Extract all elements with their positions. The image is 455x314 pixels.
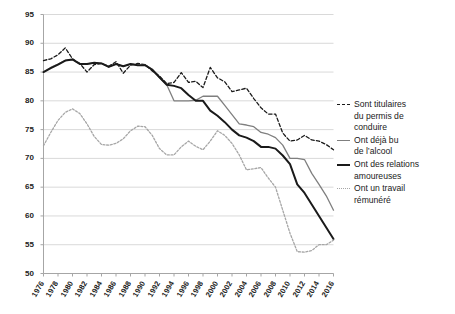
legend-item-label: Ont un travail rémunéré — [354, 183, 455, 206]
y-tick-label: 80 — [14, 96, 34, 105]
legend-item-3[interactable]: Ont des relations amoureuses — [337, 159, 455, 182]
chart-container: 95908580757065605550 1976197819801982198… — [0, 0, 455, 314]
y-tick-label: 70 — [14, 153, 34, 162]
gridlines — [44, 15, 334, 274]
y-tick-label: 85 — [14, 67, 34, 76]
legend-line-swatch-icon — [337, 183, 350, 195]
y-tick-label: 65 — [14, 182, 34, 191]
legend-item-1[interactable]: Sont titulaires du permis de conduire — [337, 99, 455, 134]
chart-legend: Sont titulaires du permis de conduireOnt… — [337, 99, 455, 207]
y-tick-label: 95 — [14, 10, 34, 19]
y-tick-label: 50 — [14, 269, 34, 278]
legend-item-label: Sont titulaires du permis de conduire — [354, 99, 455, 134]
legend-item-2[interactable]: Ont déjà bu de l’alcool — [337, 135, 455, 158]
y-tick-label: 60 — [14, 211, 34, 220]
y-tick-label: 90 — [14, 38, 34, 47]
legend-item-label: Ont des relations amoureuses — [354, 159, 455, 182]
legend-line-swatch-icon — [337, 135, 350, 147]
legend-item-4[interactable]: Ont un travail rémunéré — [337, 183, 455, 206]
y-tick-label: 55 — [14, 240, 34, 249]
axis-lines — [41, 15, 334, 277]
legend-line-swatch-icon — [337, 99, 350, 111]
y-tick-label: 75 — [14, 125, 34, 134]
series-paths — [44, 48, 334, 252]
legend-line-swatch-icon — [337, 159, 350, 171]
series-line-3 — [44, 59, 334, 239]
legend-item-label: Ont déjà bu de l’alcool — [354, 135, 455, 158]
series-line-4 — [44, 109, 334, 252]
